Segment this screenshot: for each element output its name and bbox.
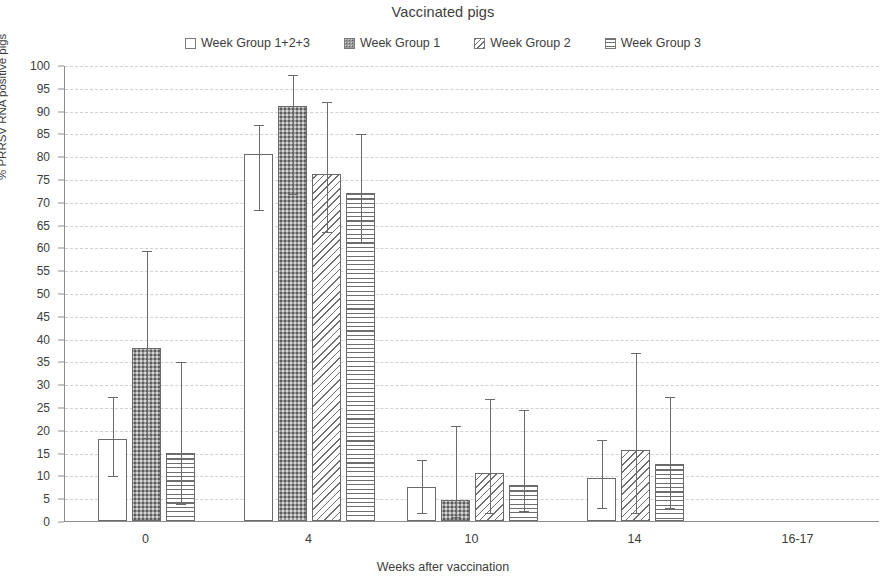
gridline: [65, 362, 879, 363]
x-axis-ticks: 04101416-17: [64, 532, 879, 554]
y-tick-label: 55: [37, 264, 50, 278]
error-bar: [113, 397, 114, 477]
gridline: [65, 385, 879, 386]
error-bar-cap-upper: [519, 410, 529, 411]
legend-label: Week Group 1: [360, 36, 440, 50]
error-bar: [293, 75, 294, 194]
error-bar: [524, 410, 525, 510]
gridline: [65, 317, 879, 318]
gridline: [65, 340, 879, 341]
error-bar-cap-lower: [597, 508, 607, 509]
error-bar: [147, 251, 148, 438]
y-tick-label: 75: [37, 173, 50, 187]
error-bar-cap-lower: [631, 513, 641, 514]
chart-legend: Week Group 1+2+3Week Group 1Week Group 2…: [0, 36, 886, 50]
y-tick-label: 50: [37, 287, 50, 301]
legend-swatch-icon: [185, 38, 196, 49]
error-bar-cap-upper: [665, 397, 675, 398]
error-bar-cap-lower: [176, 504, 186, 505]
legend-swatch-icon: [474, 38, 485, 49]
error-bar: [490, 399, 491, 513]
gridline: [65, 180, 879, 181]
y-tick-label: 90: [37, 105, 50, 119]
gridline: [65, 112, 879, 113]
y-tick-label: 30: [37, 378, 50, 392]
gridline: [65, 271, 879, 272]
y-tick-label: 65: [37, 219, 50, 233]
error-bar-cap-upper: [451, 426, 461, 427]
y-axis-ticks: 0510152025303540455055606570758085909510…: [0, 66, 64, 522]
error-bar: [636, 353, 637, 513]
error-bar-cap-lower: [451, 517, 461, 518]
gridline: [65, 157, 879, 158]
error-bar: [422, 460, 423, 512]
error-bar-cap-upper: [356, 134, 366, 135]
y-tick-label: 85: [37, 127, 50, 141]
error-bar-cap-lower: [254, 210, 264, 211]
error-bar-cap-upper: [322, 102, 332, 103]
legend-swatch-icon: [344, 38, 355, 49]
legend-entry: Week Group 2: [474, 36, 570, 50]
y-tick-label: 95: [37, 82, 50, 96]
legend-entry: Week Group 1+2+3: [185, 36, 310, 50]
error-bar-cap-lower: [417, 513, 427, 514]
error-bar-cap-lower: [142, 438, 152, 439]
error-bar-cap-upper: [631, 353, 641, 354]
y-tick-label: 100: [30, 59, 50, 73]
error-bar: [181, 362, 182, 503]
error-bar: [361, 134, 362, 241]
gridline: [65, 431, 879, 432]
error-bar-cap-upper: [597, 440, 607, 441]
error-bar-cap-upper: [417, 460, 427, 461]
y-tick-label: 40: [37, 333, 50, 347]
error-bar-cap-lower: [356, 242, 366, 243]
gridline: [65, 226, 879, 227]
legend-entry: Week Group 3: [605, 36, 701, 50]
plot-area: [64, 66, 879, 522]
gridline: [65, 134, 879, 135]
error-bar-cap-upper: [176, 362, 186, 363]
error-bar: [259, 125, 260, 209]
y-tick-label: 60: [37, 241, 50, 255]
error-bar-cap-lower: [665, 508, 675, 509]
y-tick-label: 25: [37, 401, 50, 415]
y-tick-label: 15: [37, 447, 50, 461]
error-bar: [456, 426, 457, 517]
error-bar-cap-lower: [519, 511, 529, 512]
gridline: [65, 294, 879, 295]
error-bar: [327, 102, 328, 232]
y-tick-label: 0: [43, 515, 50, 529]
gridline: [65, 66, 879, 67]
x-tick-label: 16-17: [782, 532, 814, 546]
error-bar-cap-upper: [254, 125, 264, 126]
gridline: [65, 89, 879, 90]
y-tick-label: 45: [37, 310, 50, 324]
legend-label: Week Group 3: [621, 36, 701, 50]
gridline: [65, 203, 879, 204]
y-tick-label: 5: [43, 492, 50, 506]
error-bar-cap-upper: [288, 75, 298, 76]
error-bar-cap-lower: [108, 476, 118, 477]
y-tick-label: 20: [37, 424, 50, 438]
y-tick-label: 80: [37, 150, 50, 164]
error-bar-cap-lower: [288, 194, 298, 195]
error-bar-cap-upper: [485, 399, 495, 400]
x-tick-label: 4: [305, 532, 312, 546]
x-axis-title: Weeks after vaccination: [0, 560, 886, 574]
legend-entry: Week Group 1: [344, 36, 440, 50]
error-bar-cap-lower: [322, 232, 332, 233]
chart-title: Vaccinated pigs: [0, 4, 886, 20]
legend-label: Week Group 2: [490, 36, 570, 50]
error-bar-cap-upper: [142, 251, 152, 252]
x-tick-label: 0: [142, 532, 149, 546]
y-tick-label: 10: [37, 469, 50, 483]
y-tick-label: 35: [37, 355, 50, 369]
gridline: [65, 248, 879, 249]
gridline: [65, 408, 879, 409]
y-tick-label: 70: [37, 196, 50, 210]
error-bar: [670, 397, 671, 509]
error-bar-cap-upper: [108, 397, 118, 398]
legend-swatch-icon: [605, 38, 616, 49]
chart-figure: Vaccinated pigs Week Group 1+2+3Week Gro…: [0, 0, 886, 584]
legend-label: Week Group 1+2+3: [201, 36, 310, 50]
